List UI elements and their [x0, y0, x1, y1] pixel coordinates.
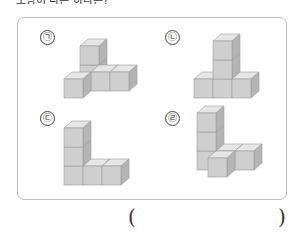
cube — [197, 106, 224, 132]
cube-front-face — [213, 41, 232, 60]
option-b-cube-figure[interactable] — [190, 30, 270, 105]
cube — [110, 65, 137, 91]
option-c-label: ㉢ — [40, 111, 55, 126]
answer-close-paren: ) — [278, 205, 286, 229]
cube-front-face — [213, 60, 232, 79]
option-b-label: ㉡ — [165, 30, 180, 45]
option-d-cube-figure[interactable] — [185, 105, 270, 195]
answer-open-paren: ( — [128, 205, 136, 229]
cube-front-face — [64, 147, 83, 166]
option-a-cube-figure[interactable] — [60, 30, 145, 105]
cube-front-face — [213, 79, 232, 98]
cube-front-face — [102, 166, 121, 185]
cube-front-face — [110, 72, 129, 91]
option-c-cube-figure[interactable] — [60, 105, 145, 190]
cube-front-face — [80, 46, 99, 65]
cube-front-face — [197, 113, 216, 132]
answer-blank[interactable] — [140, 208, 280, 230]
cube — [80, 39, 107, 65]
cube-front-face — [208, 158, 227, 177]
option-d-label: ㉣ — [165, 111, 180, 126]
cube — [208, 151, 235, 177]
cube-front-face — [64, 128, 83, 147]
cube-front-face — [232, 79, 251, 98]
cube — [213, 34, 240, 60]
cube-front-face — [83, 166, 102, 185]
cube-front-face — [235, 151, 254, 170]
cube — [64, 72, 91, 98]
cube-front-face — [194, 79, 213, 98]
cube-front-face — [64, 79, 83, 98]
cube-front-face — [91, 72, 110, 91]
cube — [64, 121, 91, 147]
cube-front-face — [64, 166, 83, 185]
option-a-label: ㉠ — [40, 30, 55, 45]
cube-front-face — [197, 132, 216, 151]
cube — [232, 72, 259, 98]
question-text-fragment: 모양이 다른 하나는? — [16, 0, 126, 4]
cube — [235, 144, 262, 170]
cube — [102, 159, 129, 185]
